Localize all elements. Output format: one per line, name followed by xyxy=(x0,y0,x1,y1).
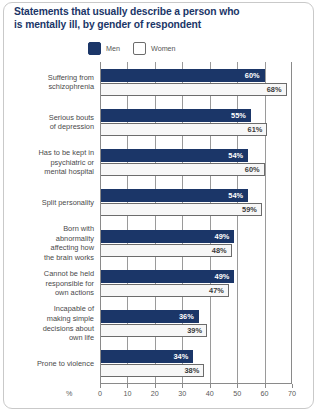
category-label-line: Incapable of xyxy=(0,304,94,314)
x-tick-70 xyxy=(292,384,293,388)
bar-value-label: 60% xyxy=(245,165,264,174)
category-label: Serious boutsof depression xyxy=(0,113,94,132)
category-label: Incapable ofmaking simpledecisions about… xyxy=(0,304,94,342)
category-label-line: Prone to violence xyxy=(0,359,94,369)
bar-value-label: 39% xyxy=(187,326,206,335)
category-label: Has to be kept inpsychiatric ormental ho… xyxy=(0,148,94,177)
category-label-line: Has to be kept in xyxy=(0,148,94,158)
bar-men: 49% xyxy=(100,230,234,243)
bar-value-label: 49% xyxy=(215,272,234,281)
x-tick-label-70: 70 xyxy=(288,389,296,398)
x-tick-60 xyxy=(265,384,266,388)
bar-men: 54% xyxy=(100,149,248,162)
category-label-line: the brain works xyxy=(0,253,94,263)
x-tick-10 xyxy=(127,384,128,388)
category-label: Suffering fromschizophrenia xyxy=(0,73,94,92)
chart-title: Statements that usually describe a perso… xyxy=(14,5,289,31)
category-label-line: responsible for xyxy=(0,279,94,289)
bar-men: 60% xyxy=(100,69,265,82)
chart-title-line-2: is mentally ill, by gender of respondent xyxy=(14,18,289,31)
bar-men: 49% xyxy=(100,270,234,283)
x-axis: 010203040506070 xyxy=(100,384,292,404)
x-tick-20 xyxy=(155,384,156,388)
category-label: Born withabnormalityaffecting howthe bra… xyxy=(0,224,94,262)
category-label-line: making simple xyxy=(0,314,94,324)
bar-value-label: 68% xyxy=(267,85,286,94)
category-label: Cannot be heldresponsible forown actions xyxy=(0,269,94,298)
chart-legend: Men Women xyxy=(88,41,189,55)
category-label-line: abnormality xyxy=(0,234,94,244)
bar-value-label: 34% xyxy=(173,352,192,361)
bar-value-label: 48% xyxy=(212,246,231,255)
x-tick-50 xyxy=(237,384,238,388)
bar-women: 47% xyxy=(100,284,229,297)
legend-item-men: Men xyxy=(88,42,120,55)
bar-value-label: 49% xyxy=(215,232,234,241)
bar-value-label: 55% xyxy=(231,111,250,120)
category-axis-labels: Suffering fromschizophreniaSerious bouts… xyxy=(0,62,94,384)
x-tick-40 xyxy=(210,384,211,388)
category-label-line: schizophrenia xyxy=(0,82,94,92)
x-tick-label-50: 50 xyxy=(233,389,241,398)
bar-value-label: 54% xyxy=(228,151,247,160)
category-label-line: affecting how xyxy=(0,243,94,253)
bar-men: 55% xyxy=(100,109,251,122)
legend-swatch-women-icon xyxy=(133,42,146,55)
x-tick-label-20: 20 xyxy=(151,389,159,398)
category-label-line: mental hospital xyxy=(0,167,94,177)
legend-swatch-men-icon xyxy=(88,42,101,55)
bar-value-label: 60% xyxy=(245,71,264,80)
x-tick-label-30: 30 xyxy=(178,389,186,398)
category-label: Split personality xyxy=(0,198,94,208)
x-tick-label-0: 0 xyxy=(98,389,102,398)
bar-value-label: 61% xyxy=(248,125,267,134)
gridline-60 xyxy=(265,62,266,384)
bar-value-label: 59% xyxy=(242,205,261,214)
bar-value-label: 47% xyxy=(209,286,228,295)
bar-value-label: 38% xyxy=(184,366,203,375)
chart-figure: Statements that usually describe a perso… xyxy=(0,0,317,412)
x-tick-label-10: 10 xyxy=(123,389,131,398)
bar-value-label: 36% xyxy=(179,312,198,321)
x-tick-label-40: 40 xyxy=(206,389,214,398)
chart-title-line-1: Statements that usually describe a perso… xyxy=(14,6,240,17)
x-tick-label-60: 60 xyxy=(261,389,269,398)
bar-women: 68% xyxy=(100,83,287,96)
category-label-line: Cannot be held xyxy=(0,269,94,279)
bar-women: 38% xyxy=(100,364,204,377)
category-label: Prone to violence xyxy=(0,359,94,369)
category-label-line: own life xyxy=(0,333,94,343)
bar-men: 36% xyxy=(100,310,199,323)
bar-men: 54% xyxy=(100,189,248,202)
bar-value-label: 54% xyxy=(228,191,247,200)
bar-women: 61% xyxy=(100,123,267,136)
x-tick-30 xyxy=(182,384,183,388)
category-label-line: of depression xyxy=(0,122,94,132)
category-label-line: Split personality xyxy=(0,198,94,208)
category-label-line: Serious bouts xyxy=(0,113,94,123)
legend-label-men: Men xyxy=(106,44,120,53)
x-tick-0 xyxy=(100,384,101,388)
bar-women: 48% xyxy=(100,244,232,257)
category-label-line: own actions xyxy=(0,288,94,298)
bar-women: 59% xyxy=(100,203,262,216)
category-label-line: Born with xyxy=(0,224,94,234)
legend-label-women: Women xyxy=(151,44,176,53)
category-label-line: Suffering from xyxy=(0,73,94,83)
category-label-line: psychiatric or xyxy=(0,158,94,168)
plot-area: 60%68%55%61%54%60%54%59%49%48%49%47%36%3… xyxy=(100,62,292,384)
percent-symbol: % xyxy=(66,389,72,398)
bar-women: 39% xyxy=(100,324,207,337)
category-label-line: decisions about xyxy=(0,324,94,334)
legend-item-women: Women xyxy=(133,42,176,55)
bar-men: 34% xyxy=(100,350,193,363)
bar-women: 60% xyxy=(100,163,265,176)
